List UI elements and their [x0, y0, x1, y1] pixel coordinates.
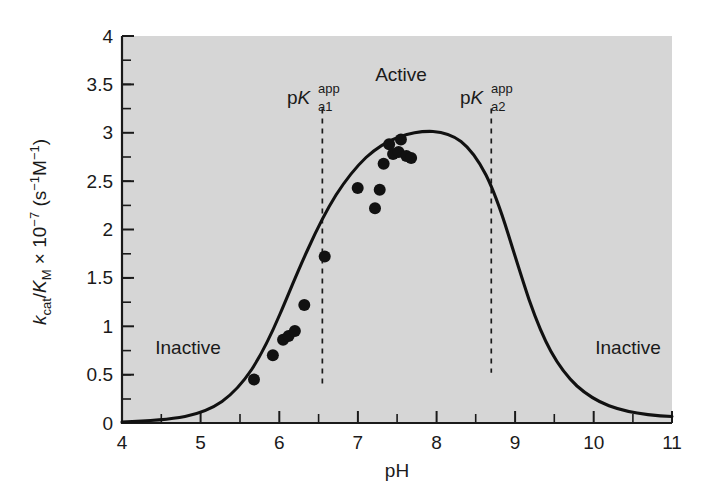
inactive-left-label: Inactive: [155, 337, 220, 358]
data-point: [405, 152, 417, 164]
y-title-exp: −7: [27, 212, 42, 227]
y-title-units-open: (s: [29, 191, 50, 212]
active-label: Active: [375, 64, 427, 85]
svg-text:pK: pK: [287, 87, 312, 108]
pka2-sub: a2: [491, 99, 505, 114]
y-tick-label: 1.5: [87, 267, 113, 288]
x-axis-title: pH: [385, 460, 409, 481]
x-tick-label: 9: [510, 432, 521, 453]
svg-text:kcat/KM × 10−7 (s−1M−1): kcat/KM × 10−7 (s−1M−1): [27, 139, 54, 325]
svg-text:pK: pK: [460, 87, 485, 108]
pka1-sub: a1: [318, 99, 332, 114]
plot-area-background: [122, 36, 672, 423]
y-tick-label: 3.5: [87, 74, 113, 95]
inactive-right-label: Inactive: [595, 337, 660, 358]
y-title-units-exp1: −1: [27, 176, 42, 191]
data-point: [298, 299, 310, 311]
data-point: [352, 182, 364, 194]
data-point: [369, 202, 381, 214]
pka1-K: K: [298, 87, 312, 108]
data-point: [267, 349, 279, 361]
pka2-sup: app: [491, 81, 513, 96]
x-tick-label: 8: [431, 432, 442, 453]
y-tick-label: 0.5: [87, 364, 113, 385]
y-tick-labels: 0 0.5 1 1.5 2 2.5 3 3.5 4: [87, 26, 114, 434]
y-title-cat: cat: [39, 298, 54, 316]
x-tick-label: 7: [353, 432, 364, 453]
data-point: [319, 251, 331, 263]
data-point: [289, 325, 301, 337]
data-point: [378, 158, 390, 170]
y-tick-label: 3: [102, 122, 113, 143]
pka2-p: p: [460, 87, 471, 108]
y-title-M: M: [39, 269, 54, 280]
data-point: [374, 184, 386, 196]
y-title-units-exp2: −1: [27, 145, 42, 160]
y-tick-label: 1: [102, 316, 113, 337]
pka2-K: K: [471, 87, 485, 108]
x-tick-label: 4: [117, 432, 128, 453]
x-tick-label: 6: [274, 432, 285, 453]
pka1-sup: app: [318, 81, 340, 96]
ph-rate-profile-figure: 4 5 6 7 8 9 10 11 0 0.5 1 1.5 2 2.5 3 3.…: [0, 0, 708, 496]
y-tick-label: 2.5: [87, 171, 113, 192]
x-tick-labels: 4 5 6 7 8 9 10 11: [117, 432, 682, 453]
y-tick-label: 4: [102, 26, 113, 47]
y-title-units-M: M: [29, 160, 50, 176]
y-axis-title: kcat/KM × 10−7 (s−1M−1): [27, 139, 54, 325]
y-title-times: × 10: [29, 227, 50, 270]
x-tick-label: 11: [662, 432, 682, 453]
chart-canvas: 4 5 6 7 8 9 10 11 0 0.5 1 1.5 2 2.5 3 3.…: [0, 0, 708, 496]
x-tick-label: 10: [583, 432, 604, 453]
pka1-p: p: [287, 87, 298, 108]
y-tick-label: 2: [102, 219, 113, 240]
y-tick-label: 0: [102, 413, 113, 434]
data-point: [248, 373, 260, 385]
y-title-units-close: ): [29, 139, 50, 145]
x-tick-label: 5: [195, 432, 206, 453]
data-point: [395, 134, 407, 146]
